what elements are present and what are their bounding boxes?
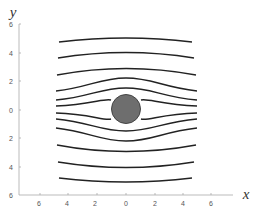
x-tick-label: 4 (65, 200, 69, 207)
y-axis-label: y (8, 4, 17, 20)
y-tick-label: 4 (9, 50, 13, 57)
y-tick-label: 6 (9, 21, 13, 28)
x-tick-label: 2 (93, 200, 97, 207)
streamline (58, 162, 194, 168)
y-tick-label: 6 (9, 192, 13, 199)
x-tick-label: 6 (209, 200, 213, 207)
y-tick-label: 2 (9, 135, 13, 142)
streamline (57, 145, 196, 152)
streamline (58, 53, 194, 59)
streamline (56, 78, 197, 91)
y-tick-label: 4 (9, 164, 13, 171)
x-tick-label: 0 (124, 200, 128, 207)
y-tick-label: 2 (9, 78, 13, 85)
streamline (59, 38, 192, 42)
cylinder (112, 95, 141, 124)
x-tick-label: 4 (181, 200, 185, 207)
streamline-diagram: 6 4 2 0 2 4 6 6 4 2 0 2 4 6 y x (0, 0, 256, 215)
x-tick-label: 2 (153, 200, 157, 207)
y-tick-label: 0 (9, 107, 13, 114)
streamline (59, 178, 192, 182)
x-axis-label: x (242, 186, 250, 202)
x-tick-label: 6 (37, 200, 41, 207)
streamline (56, 128, 197, 141)
streamline (57, 69, 196, 76)
